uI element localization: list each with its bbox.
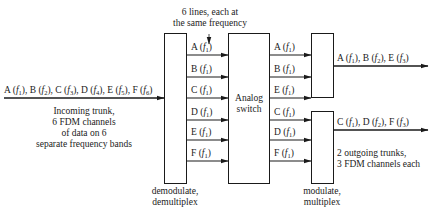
mux-caption-1: modulate, xyxy=(282,186,362,197)
switch-output-label-a: A (f1) xyxy=(274,42,295,52)
demux-caption-2: demultiplex xyxy=(135,197,215,208)
incoming-trunk-description-4: separate frequency bands xyxy=(4,139,164,150)
demux-output-label-d: D (f1) xyxy=(191,107,212,117)
switch-output-label-f: F (f1) xyxy=(274,148,294,158)
outgoing-trunks-description-2: 3 FDM channels each xyxy=(337,159,420,170)
mux-block-top xyxy=(312,34,334,98)
demux-output-label-e: E (f1) xyxy=(191,127,211,137)
demux-output-label-c: C (f1) xyxy=(191,85,212,95)
outgoing-trunks-description-1: 2 outgoing trunks, xyxy=(337,148,406,159)
switch-label-line-2: switch xyxy=(228,104,270,115)
demux-caption-1: demodulate, xyxy=(135,186,215,197)
demux-output-label-b: B (f1) xyxy=(191,64,212,74)
switch-output-label-d: D (f1) xyxy=(274,127,295,137)
annotation-line-2: the same frequency xyxy=(160,18,260,29)
outgoing-trunk-2-label: C (f1), D (f2), F (f3) xyxy=(337,117,409,127)
switch-label-line-1: Analog xyxy=(228,93,270,104)
demux-block xyxy=(165,34,187,184)
switch-output-label-b: B (f1) xyxy=(274,64,295,74)
annotation-line-1: 6 lines, each at xyxy=(160,7,260,18)
switch-output-label-e: E (f1) xyxy=(274,85,294,95)
mux-block-bottom xyxy=(312,112,334,184)
incoming-trunk-description-2: 6 FDM channels xyxy=(4,117,164,128)
outgoing-trunk-1-label: A (f1), B (f2), E (f3) xyxy=(337,53,409,63)
fdm-switching-diagram: 6 lines, each at the same frequency A (f… xyxy=(0,0,432,212)
incoming-trunk-description-3: of data on 6 xyxy=(4,128,164,139)
incoming-trunk-label: A (f1), B (f2), C (f3), D (f4), E (f5), … xyxy=(4,85,152,95)
demux-output-label-a: A (f1) xyxy=(191,42,212,52)
switch-output-label-c: C (f1) xyxy=(274,107,295,117)
incoming-trunk-description-1: Incoming trunk, xyxy=(4,106,164,117)
demux-output-label-f: F (f1) xyxy=(191,148,211,158)
mux-caption-2: multiplex xyxy=(282,197,362,208)
